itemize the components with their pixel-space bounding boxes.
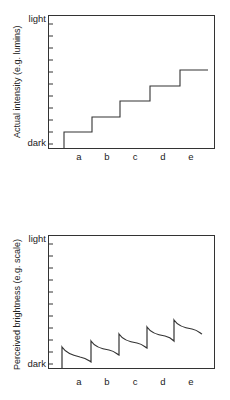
x-label-e: e (188, 376, 193, 387)
y-axis-label: Perceived brightness (e.g. scale) (12, 239, 22, 370)
dark-label: dark (28, 137, 47, 148)
light-label: light (29, 233, 47, 244)
perceived-brightness-plot: light dark Perceived brightness (e.g. sc… (0, 200, 230, 400)
y-axis-label: Actual intensity (e.g. lumins) (12, 25, 22, 138)
staircase-line (64, 70, 208, 148)
perceived-brightness-chart: light dark Perceived brightness (e.g. sc… (0, 200, 230, 400)
light-label: light (29, 13, 47, 24)
x-label-a: a (76, 151, 82, 162)
x-label-b: b (104, 376, 109, 387)
x-label-c: c (133, 376, 138, 387)
x-label-e: e (188, 151, 193, 162)
actual-intensity-chart: light dark Actual intensity (e.g. lumins… (0, 0, 230, 200)
x-label-d: d (160, 376, 165, 387)
x-label-c: c (133, 151, 138, 162)
dark-label: dark (28, 358, 47, 369)
x-label-d: d (160, 151, 165, 162)
sawtooth-line (62, 320, 202, 368)
actual-intensity-plot: light dark Actual intensity (e.g. lumins… (0, 0, 230, 200)
x-label-a: a (76, 376, 82, 387)
x-label-b: b (104, 151, 109, 162)
